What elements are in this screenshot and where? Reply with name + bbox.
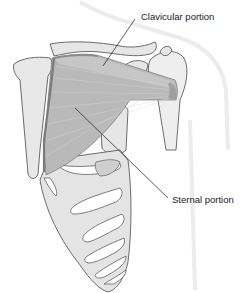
label-clavicular-portion: Clavicular portion [141,12,214,22]
pectoralis-diagram [0,0,246,293]
leader-line-clavicular [103,19,135,66]
clavicle-bone [50,42,156,56]
label-sternal-portion: Sternal portion [172,195,234,205]
